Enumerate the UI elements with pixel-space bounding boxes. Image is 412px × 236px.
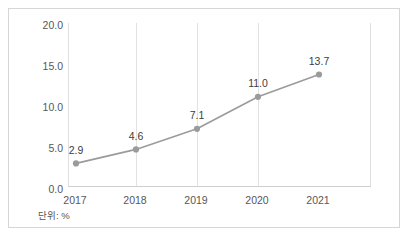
data-point-marker <box>133 146 139 152</box>
x-tick-label: 2018 <box>105 195 165 206</box>
x-tick-label: 2019 <box>166 195 226 206</box>
data-label-2019: 7.1 <box>190 110 205 121</box>
data-point-marker <box>316 71 322 77</box>
data-point-marker <box>255 94 261 100</box>
y-tick-label: 0.0 <box>17 184 63 195</box>
data-label-2021: 13.7 <box>309 56 329 67</box>
x-axis: 2017 2018 2019 2020 2021 <box>9 195 401 211</box>
x-tick-label: 2021 <box>288 195 348 206</box>
data-label-2018: 4.6 <box>129 131 144 142</box>
data-point-marker <box>194 126 200 132</box>
y-tick-label: 20.0 <box>17 20 63 31</box>
plot-area: 2.9 4.6 7.1 11.0 13.7 <box>68 23 371 187</box>
unit-note: 단위: % <box>38 211 70 221</box>
y-tick-label: 15.0 <box>17 61 63 72</box>
y-tick-label: 10.0 <box>17 102 63 113</box>
data-label-2020: 11.0 <box>248 78 268 89</box>
x-tick-label: 2020 <box>227 195 287 206</box>
x-tick-label: 2017 <box>45 195 105 206</box>
y-tick-label: 5.0 <box>17 143 63 154</box>
chart-card: 20.0 15.0 10.0 5.0 0.0 2.9 4.6 7.1 11.0 … <box>8 8 400 228</box>
data-point-marker <box>73 160 79 166</box>
line-series-svg <box>69 23 372 187</box>
data-label-2017: 2.9 <box>69 145 84 156</box>
y-axis: 20.0 15.0 10.0 5.0 0.0 <box>15 9 63 201</box>
